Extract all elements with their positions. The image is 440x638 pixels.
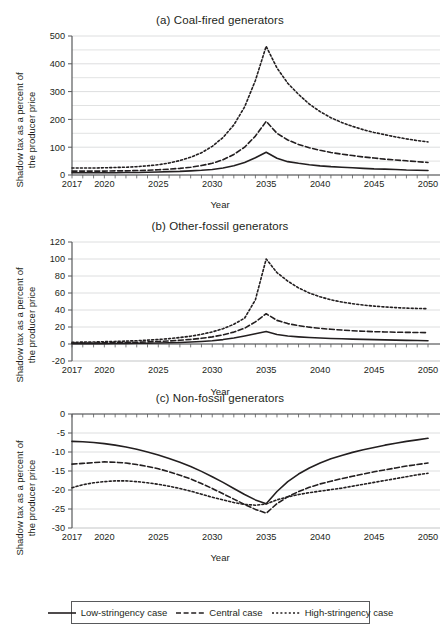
svg-text:-20: -20 xyxy=(52,485,65,495)
svg-text:-15: -15 xyxy=(52,466,65,476)
legend-item-low-stringency: Low-stringency case xyxy=(48,607,168,618)
svg-text:2030: 2030 xyxy=(202,532,222,542)
svg-text:2045: 2045 xyxy=(364,365,384,375)
svg-text:-25: -25 xyxy=(52,504,65,514)
legend-swatch-solid-icon xyxy=(48,609,76,617)
svg-text:2030: 2030 xyxy=(202,365,222,375)
series-line-dashed xyxy=(72,121,428,171)
svg-text:120: 120 xyxy=(50,237,65,247)
svg-text:60: 60 xyxy=(55,288,65,298)
legend-swatch-dashed-icon xyxy=(176,609,204,617)
svg-text:2050: 2050 xyxy=(418,179,438,189)
legend-label-central: Central case xyxy=(209,607,262,618)
svg-text:100: 100 xyxy=(50,254,65,264)
svg-text:0: 0 xyxy=(60,409,65,419)
svg-text:2035: 2035 xyxy=(256,179,276,189)
svg-text:2017: 2017 xyxy=(62,532,82,542)
svg-text:2045: 2045 xyxy=(364,532,384,542)
series-line-dotted xyxy=(72,259,428,342)
svg-text:2025: 2025 xyxy=(148,532,168,542)
svg-text:2025: 2025 xyxy=(148,365,168,375)
figure-shadow-tax: (a) Coal-fired generators Shadow tax as … xyxy=(0,0,440,638)
series-line-dotted xyxy=(72,46,428,168)
svg-text:100: 100 xyxy=(50,143,65,153)
svg-text:2040: 2040 xyxy=(310,179,330,189)
svg-text:200: 200 xyxy=(50,115,65,125)
svg-text:-5: -5 xyxy=(57,428,65,438)
legend-label-low-stringency: Low-stringency case xyxy=(81,607,168,618)
svg-text:2050: 2050 xyxy=(418,365,438,375)
svg-text:2035: 2035 xyxy=(256,532,276,542)
series-line-dotted xyxy=(72,473,428,505)
svg-text:2020: 2020 xyxy=(94,532,114,542)
panel-non-fossil: (c) Non-fossil generators Shadow tax as … xyxy=(0,392,440,578)
svg-text:2045: 2045 xyxy=(364,179,384,189)
svg-text:400: 400 xyxy=(50,59,65,69)
panel-other-fossil: (b) Other-fossil generators Shadow tax a… xyxy=(0,220,440,402)
svg-text:2040: 2040 xyxy=(310,532,330,542)
panel-a-plot: 0100200300400500201720202025203020352040… xyxy=(0,14,440,214)
panel-b-plot: -200204060801001202017202020252030203520… xyxy=(0,220,440,402)
panel-a-x-axis-label: Year xyxy=(0,199,440,210)
panel-c-x-axis-label: Year xyxy=(0,552,440,563)
svg-text:-10: -10 xyxy=(52,447,65,457)
svg-text:2050: 2050 xyxy=(418,532,438,542)
legend-swatch-dotted-icon xyxy=(272,609,300,617)
svg-text:2030: 2030 xyxy=(202,179,222,189)
legend-item-high-stringency: High-stringency case xyxy=(272,607,394,618)
panel-c-plot: 0-5-10-15-20-25-302017202020252030203520… xyxy=(0,392,440,578)
svg-text:2017: 2017 xyxy=(62,365,82,375)
svg-text:500: 500 xyxy=(50,31,65,41)
svg-text:2040: 2040 xyxy=(310,365,330,375)
svg-text:0: 0 xyxy=(60,339,65,349)
svg-text:2025: 2025 xyxy=(148,179,168,189)
svg-text:20: 20 xyxy=(55,322,65,332)
series-line-dashed xyxy=(72,314,428,343)
series-line-solid xyxy=(72,152,428,173)
svg-text:2035: 2035 xyxy=(256,365,276,375)
legend-item-central: Central case xyxy=(176,607,262,618)
svg-text:40: 40 xyxy=(55,305,65,315)
svg-text:300: 300 xyxy=(50,87,65,97)
panel-coal-fired: (a) Coal-fired generators Shadow tax as … xyxy=(0,14,440,214)
svg-text:2020: 2020 xyxy=(94,179,114,189)
svg-text:2020: 2020 xyxy=(94,365,114,375)
legend: Low-stringency case Central case High-st… xyxy=(71,601,370,624)
svg-text:80: 80 xyxy=(55,271,65,281)
svg-text:2017: 2017 xyxy=(62,179,82,189)
legend-label-high-stringency: High-stringency case xyxy=(305,607,394,618)
